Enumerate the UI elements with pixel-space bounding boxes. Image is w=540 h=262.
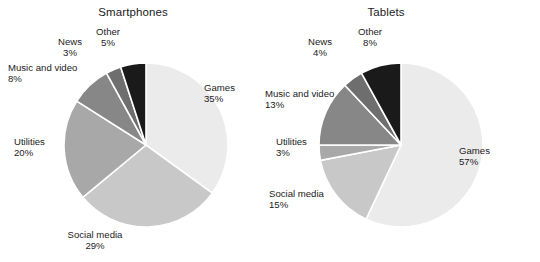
slice-label-music-and-video: Music and video8% (8, 62, 77, 85)
slice-label-name: Music and video (265, 88, 334, 99)
slice-label-percent: 57% (459, 156, 490, 167)
slice-label-name: News (58, 36, 82, 47)
slice-label-name: Games (459, 145, 490, 156)
chart-title-smartphones: Smartphones (0, 6, 268, 18)
slice-label-name: Music and video (8, 62, 77, 73)
slice-label-percent: 8% (358, 37, 382, 48)
slice-label-percent: 29% (68, 240, 123, 251)
slice-label-percent: 3% (276, 147, 307, 158)
slice-label-name: Games (204, 82, 235, 93)
slice-label-percent: 15% (269, 199, 324, 210)
pie-chart-figure: Smartphones Games35%Social media29%Utili… (0, 0, 540, 262)
slice-label-games: Games35% (204, 82, 235, 105)
chart-panel-tablets: Tablets Games57%Social media15%Utilities… (262, 0, 540, 262)
slice-label-social-media: Social media15% (269, 188, 324, 211)
slice-label-music-and-video: Music and video13% (265, 88, 334, 111)
slice-label-percent: 3% (58, 47, 82, 58)
slice-label-percent: 20% (14, 147, 45, 158)
slice-label-utilities: Utilities3% (276, 136, 307, 159)
slice-label-other: Other8% (358, 26, 382, 49)
slice-label-name: Other (358, 26, 382, 37)
slice-label-other: Other5% (96, 26, 120, 49)
slice-label-percent: 8% (8, 73, 77, 84)
chart-panel-smartphones: Smartphones Games35%Social media29%Utili… (0, 0, 270, 262)
slice-label-name: Social media (269, 188, 324, 199)
slice-label-utilities: Utilities20% (14, 136, 45, 159)
slice-label-name: Utilities (276, 136, 307, 147)
slice-label-name: Other (96, 26, 120, 37)
slice-label-percent: 13% (265, 99, 334, 110)
slice-label-percent: 35% (204, 93, 235, 104)
slice-label-games: Games57% (459, 145, 490, 168)
chart-title-tablets: Tablets (247, 6, 525, 18)
slice-label-social-media: Social media29% (68, 229, 123, 252)
slice-label-name: Social media (68, 229, 123, 240)
slice-label-percent: 5% (96, 37, 120, 48)
slice-label-percent: 4% (308, 47, 332, 58)
slice-label-name: News (308, 36, 332, 47)
slice-label-name: Utilities (14, 136, 45, 147)
slice-label-news: News4% (308, 36, 332, 59)
slice-label-news: News3% (58, 36, 82, 59)
